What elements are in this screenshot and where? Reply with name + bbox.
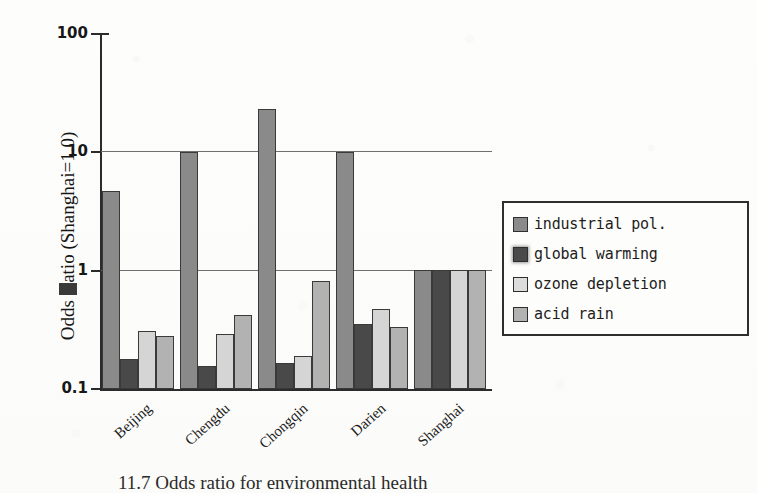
- legend: industrial pol. global warming ozone dep…: [502, 201, 749, 336]
- bar-chongqin-acid-rain[interactable]: [312, 281, 330, 389]
- bar-beijing-ozone-depletion[interactable]: [138, 331, 156, 389]
- bar-shanghai-acid-rain[interactable]: [468, 270, 486, 389]
- legend-swatch-global-warming: [513, 247, 528, 262]
- bar-chart: Odds Ratio (Shanghai=1.0) 100 10 1 0.1 B…: [0, 0, 757, 493]
- y-tick-label-1: 1: [44, 263, 88, 278]
- legend-item-ozone-depletion[interactable]: ozone depletion: [513, 269, 739, 299]
- y-tick-label-100: 100: [44, 26, 88, 41]
- bar-darien-acid-rain[interactable]: [390, 327, 408, 389]
- bar-beijing-acid-rain[interactable]: [156, 336, 174, 389]
- legend-swatch-ozone-depletion: [513, 277, 528, 292]
- legend-item-global-warming[interactable]: global warming: [513, 239, 739, 269]
- bar-chengdu-ozone-depletion[interactable]: [216, 334, 234, 389]
- gridline-10: [101, 151, 492, 152]
- y-tick-100: [91, 33, 101, 35]
- y-axis-title: Odds Ratio (Shanghai=1.0): [57, 86, 79, 386]
- bar-chengdu-acid-rain[interactable]: [234, 315, 252, 389]
- bar-beijing-industrial-pol[interactable]: [102, 191, 120, 389]
- legend-swatch-industrial-pol: [513, 217, 528, 232]
- y-axis-title-prefix: Odds: [57, 295, 78, 340]
- legend-label-acid-rain: acid rain: [534, 305, 613, 323]
- y-tick-label-10: 10: [44, 144, 88, 159]
- y-tick-label-0.1: 0.1: [44, 381, 88, 396]
- y-tick-0.1: [91, 388, 101, 390]
- bar-beijing-global-warming[interactable]: [120, 359, 138, 389]
- legend-label-ozone-depletion: ozone depletion: [534, 275, 666, 293]
- bar-chongqin-ozone-depletion[interactable]: [294, 356, 312, 389]
- y-tick-1: [91, 270, 101, 272]
- bar-chengdu-industrial-pol[interactable]: [180, 152, 198, 389]
- legend-item-industrial-pol[interactable]: industrial pol.: [513, 209, 739, 239]
- bar-chongqin-industrial-pol[interactable]: [258, 109, 276, 389]
- legend-item-acid-rain[interactable]: acid rain: [513, 299, 739, 329]
- legend-label-industrial-pol: industrial pol.: [534, 215, 666, 233]
- bar-shanghai-ozone-depletion[interactable]: [450, 270, 468, 389]
- figure-caption: 11.7 Odds ratio for environmental health: [118, 472, 428, 493]
- ink-smudge-over-R: R: [59, 283, 76, 295]
- bar-darien-global-warming[interactable]: [354, 324, 372, 389]
- legend-swatch-acid-rain: [513, 307, 528, 322]
- bar-chongqin-global-warming[interactable]: [276, 363, 294, 389]
- bar-darien-ozone-depletion[interactable]: [372, 309, 390, 389]
- x-axis-line: [100, 389, 492, 391]
- bar-shanghai-global-warming[interactable]: [432, 270, 450, 389]
- legend-label-global-warming: global warming: [534, 245, 658, 263]
- y-axis-top-cap: [100, 33, 109, 35]
- bar-darien-industrial-pol[interactable]: [336, 152, 354, 389]
- bar-chengdu-global-warming[interactable]: [198, 366, 216, 389]
- bar-shanghai-industrial-pol[interactable]: [414, 270, 432, 389]
- y-tick-10: [91, 151, 101, 153]
